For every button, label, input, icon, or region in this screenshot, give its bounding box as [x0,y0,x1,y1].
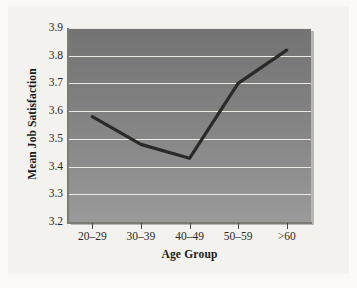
y-axis-tick-label: 3.9 [33,22,63,34]
x-axis-tick [92,223,93,229]
chart-figure: 3.93.83.73.63.53.43.33.2 20–2930–3940–49… [0,0,357,288]
y-axis-tick-label: 3.2 [33,216,63,228]
x-axis-title: Age Group [68,248,311,260]
x-axis-tick [141,223,142,229]
x-axis-tick [287,223,288,229]
y-axis-title: Mean Job Satisfaction [26,39,38,209]
line-series-mean-job-satisfaction [68,28,311,222]
x-axis-tick [190,223,191,229]
y-axis-line [67,28,69,223]
x-axis-tick [238,223,239,229]
x-axis-tick-label: >60 [257,231,317,243]
plot-area [68,28,311,222]
